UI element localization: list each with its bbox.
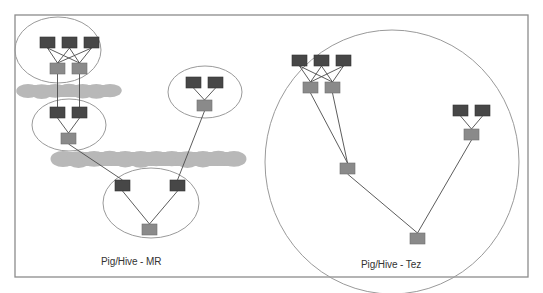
map-task-node-mr3m1 — [186, 77, 201, 88]
map-task-node-tzm4 — [453, 105, 468, 116]
map-task-node-mr4m1 — [115, 180, 130, 191]
map-task-node-mr1m3 — [84, 37, 99, 48]
reduce-task-node-mr4r1 — [142, 224, 157, 235]
reduce-task-node-mr3r1 — [197, 100, 212, 111]
mr-panel-label: Pig/Hive - MR — [101, 256, 161, 267]
diagram-canvas — [0, 0, 543, 293]
reduce-task-node-mr1r2 — [72, 63, 87, 74]
reduce-task-node-mr1r1 — [50, 63, 65, 74]
map-task-node-mr1m1 — [40, 37, 55, 48]
map-task-node-mr4m2 — [170, 180, 185, 191]
reduce-task-node-mr2r1 — [61, 133, 76, 144]
map-task-node-mr2m2 — [72, 107, 87, 118]
background — [0, 0, 543, 293]
hdfs-write-blob-2 — [51, 151, 247, 168]
map-task-node-mr3m2 — [208, 77, 223, 88]
tez-panel-label: Pig/Hive - Tez — [361, 259, 421, 270]
map-task-node-mr2m1 — [50, 107, 65, 118]
reduce-task-node-tzr2 — [325, 82, 340, 93]
reduce-task-node-tzr4 — [340, 163, 355, 174]
reduce-task-node-tzr1 — [303, 82, 318, 93]
reduce-task-node-tzr3 — [464, 129, 479, 140]
reduce-task-node-tzr5 — [410, 233, 425, 244]
map-task-node-tzm5 — [475, 105, 490, 116]
map-task-node-mr1m2 — [62, 37, 77, 48]
map-task-node-tzm2 — [314, 55, 329, 66]
map-task-node-tzm3 — [336, 55, 351, 66]
map-task-node-tzm1 — [292, 55, 307, 66]
hdfs-write-blob-1 — [16, 84, 122, 99]
